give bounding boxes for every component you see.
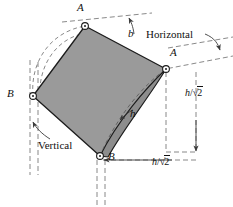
height-radicand: 2 xyxy=(197,86,203,98)
vertical-label: Vertical xyxy=(38,140,72,151)
right-dashed-line xyxy=(160,56,233,70)
pivot-B-bottom-center xyxy=(99,155,101,157)
vertex-label-B-left: B xyxy=(7,88,14,99)
horizontal-leader-arrow xyxy=(205,34,220,50)
width-radicand: 2 xyxy=(164,155,170,167)
dimension-label-b: b xyxy=(128,28,134,39)
pivot-B-left-center xyxy=(32,95,34,97)
width-radical: √2 xyxy=(160,157,171,167)
vertex-label-B-bottom: B xyxy=(108,151,115,162)
vertex-label-A-right: A xyxy=(170,47,177,58)
diagram-svg xyxy=(0,0,233,207)
vertical-leader-arrow xyxy=(33,122,50,139)
vertex-label-A-top: A xyxy=(77,2,84,13)
height-dimension-label: h/√2 xyxy=(185,88,203,98)
height-radical: √2 xyxy=(193,88,204,98)
top-dashed-line xyxy=(62,13,152,22)
pivot-A-right-center xyxy=(165,68,167,70)
arc-length-label-h: h xyxy=(130,108,136,119)
figure-container: A A B B b Horizontal Vertical h h/√2 h/√… xyxy=(0,0,233,207)
width-dimension-label: h/√2 xyxy=(152,157,170,167)
pivot-A-top-center xyxy=(84,25,86,27)
horizontal-label: Horizontal xyxy=(146,29,193,40)
